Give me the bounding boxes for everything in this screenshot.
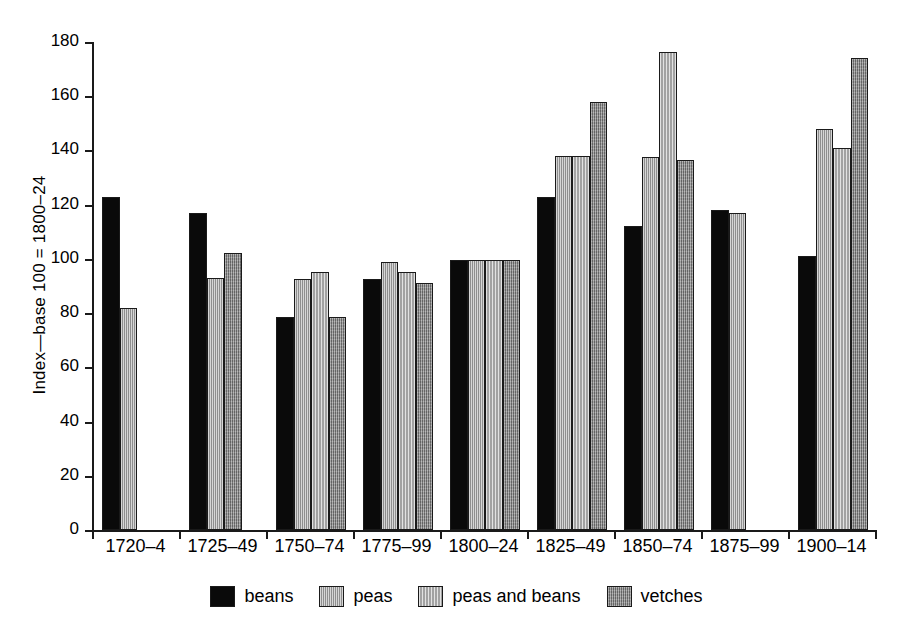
x-axis-label: 1775–99 — [353, 536, 440, 557]
y-axis-title: Index—base 100 = 1800–24 — [30, 65, 50, 505]
bar-group — [788, 42, 875, 530]
x-axis-label: 1900–14 — [788, 536, 875, 557]
x-axis-line — [92, 530, 876, 532]
bar-group — [266, 42, 353, 530]
y-tick-label: 120 — [51, 194, 79, 214]
chart-legend: beanspeaspeas and beansvetches — [0, 586, 913, 607]
bar-peas — [381, 262, 399, 530]
legend-swatch-icon — [210, 586, 235, 607]
y-tick: 80 — [85, 313, 92, 315]
legend-item-beans: beans — [210, 586, 293, 607]
x-axis-label: 1825–49 — [527, 536, 614, 557]
bar-beans — [450, 260, 468, 530]
bar-vetches — [503, 260, 521, 530]
y-tick-label: 160 — [51, 85, 79, 105]
y-tick: 0 — [85, 530, 92, 532]
bar-peas-and-beans — [311, 272, 329, 530]
bar-beans — [189, 213, 207, 530]
x-axis-label: 1725–49 — [179, 536, 266, 557]
plot-area: 020406080100120140160180 — [92, 42, 875, 530]
bar-vetches — [851, 58, 869, 530]
bar-group — [179, 42, 266, 530]
bar-vetches — [590, 102, 608, 530]
bar-group — [614, 42, 701, 530]
y-tick: 100 — [85, 259, 92, 261]
bar-vetches — [677, 160, 695, 530]
x-axis-label: 1720–4 — [92, 536, 179, 557]
bar-group — [92, 42, 179, 530]
y-tick-label: 20 — [60, 465, 79, 485]
bar-peas — [816, 129, 834, 530]
bar-peas — [729, 213, 747, 530]
y-tick-label: 140 — [51, 139, 79, 159]
bar-beans — [363, 279, 381, 530]
legend-item-peas: peas — [319, 586, 392, 607]
y-tick: 120 — [85, 205, 92, 207]
bar-chart-figure: Index—base 100 = 1800–24 020406080100120… — [0, 0, 913, 641]
legend-item-peas-and-beans: peas and beans — [418, 586, 580, 607]
bar-vetches — [416, 283, 434, 530]
bar-peas — [294, 279, 312, 530]
bar-peas-and-beans — [398, 272, 416, 530]
x-tick — [875, 530, 877, 539]
x-axis-label: 1850–74 — [614, 536, 701, 557]
y-tick: 20 — [85, 476, 92, 478]
bar-beans — [624, 226, 642, 530]
bar-peas-and-beans — [833, 148, 851, 530]
bar-peas-and-beans — [485, 260, 503, 530]
bar-vetches — [224, 253, 242, 530]
bar-beans — [798, 256, 816, 530]
legend-label: beans — [244, 586, 293, 607]
legend-swatch-icon — [418, 586, 443, 607]
y-tick: 60 — [85, 367, 92, 369]
y-tick-label: 40 — [60, 411, 79, 431]
bar-peas-and-beans — [659, 52, 677, 531]
bar-peas — [207, 278, 225, 530]
bar-peas-and-beans — [572, 156, 590, 530]
legend-swatch-icon — [319, 586, 344, 607]
legend-label: peas and beans — [452, 586, 580, 607]
bar-peas — [555, 156, 573, 530]
x-axis-label: 1800–24 — [440, 536, 527, 557]
legend-label: vetches — [641, 586, 703, 607]
bar-peas — [642, 157, 660, 530]
y-tick-label: 100 — [51, 248, 79, 268]
y-tick-label: 0 — [70, 519, 79, 539]
y-tick: 40 — [85, 422, 92, 424]
x-axis-label: 1750–74 — [266, 536, 353, 557]
y-tick-label: 180 — [51, 31, 79, 51]
bar-beans — [537, 197, 555, 530]
bar-beans — [276, 317, 294, 530]
legend-swatch-icon — [607, 586, 632, 607]
y-tick-label: 80 — [60, 302, 79, 322]
bar-peas — [120, 308, 138, 530]
y-tick-label: 60 — [60, 356, 79, 376]
y-tick: 140 — [85, 150, 92, 152]
bar-beans — [102, 197, 120, 530]
bar-group — [527, 42, 614, 530]
legend-item-vetches: vetches — [607, 586, 703, 607]
legend-label: peas — [353, 586, 392, 607]
bar-beans — [711, 210, 729, 530]
y-tick: 160 — [85, 96, 92, 98]
bar-group — [440, 42, 527, 530]
x-axis-label: 1875–99 — [701, 536, 788, 557]
bar-vetches — [329, 317, 347, 530]
bar-peas — [468, 260, 486, 530]
y-tick: 180 — [85, 42, 92, 44]
bar-group — [353, 42, 440, 530]
bar-group — [701, 42, 788, 530]
